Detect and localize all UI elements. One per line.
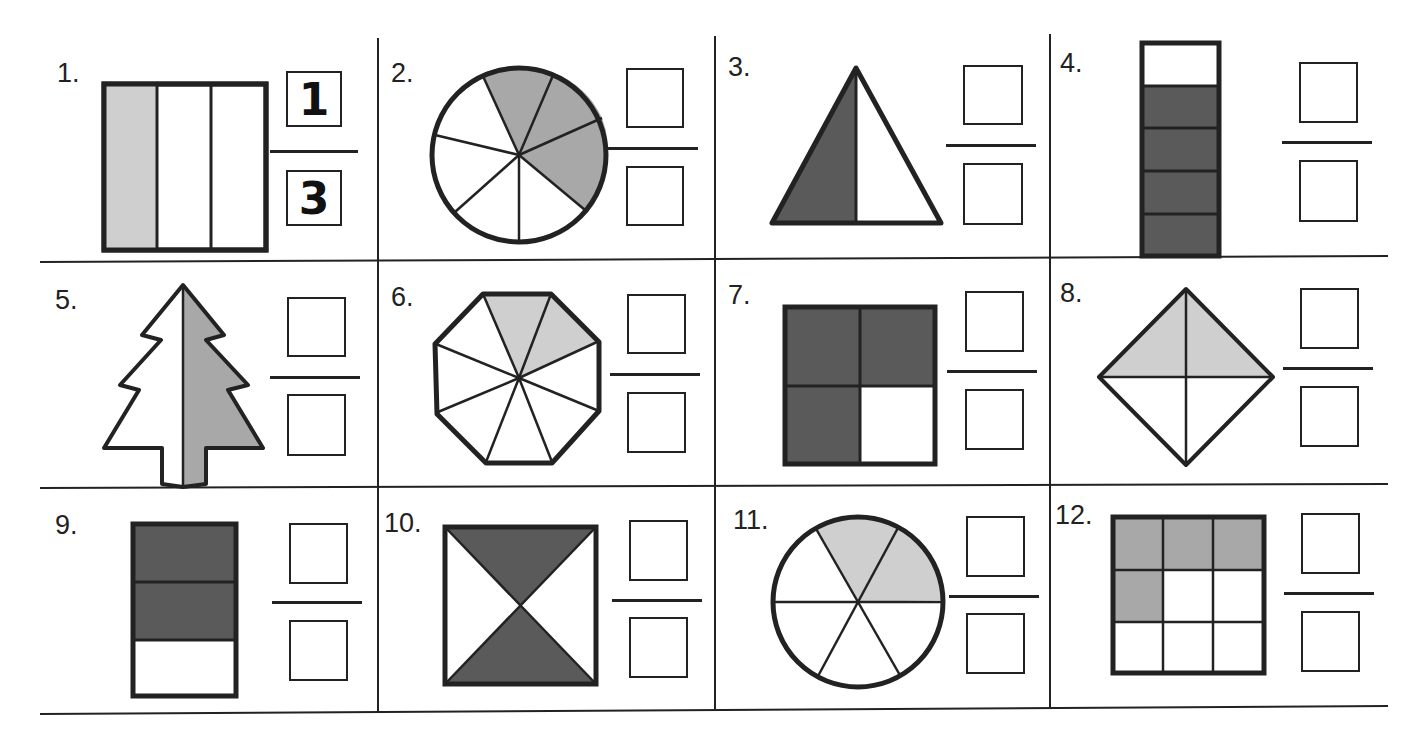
fraction-bar-5 bbox=[270, 376, 360, 379]
worksheet-graphics bbox=[0, 0, 1422, 747]
denominator-box-6[interactable] bbox=[627, 392, 686, 453]
fraction-bar-3 bbox=[946, 144, 1036, 147]
shape-7-square bbox=[785, 307, 935, 464]
shape-4-tall-rectangle bbox=[1142, 43, 1219, 256]
problem-number-5: 5. bbox=[55, 285, 78, 316]
numerator-box-11[interactable] bbox=[966, 516, 1025, 577]
denominator-box-8[interactable] bbox=[1300, 386, 1359, 447]
fraction-bar-10 bbox=[612, 599, 702, 602]
numerator-box-10[interactable] bbox=[629, 520, 688, 581]
problem-number-3: 3. bbox=[728, 52, 751, 83]
shape-12-grid bbox=[1113, 517, 1264, 673]
problem-number-1: 1. bbox=[57, 58, 80, 89]
denominator-box-2[interactable] bbox=[626, 166, 684, 226]
denominator-box-11[interactable] bbox=[966, 613, 1025, 674]
numerator-box-8[interactable] bbox=[1300, 288, 1359, 349]
denominator-box-10[interactable] bbox=[629, 617, 688, 678]
denominator-box-4[interactable] bbox=[1299, 160, 1358, 222]
fraction-bar-4 bbox=[1282, 141, 1372, 144]
shape-3-triangle bbox=[772, 68, 941, 223]
shape-1-rectangle bbox=[104, 84, 266, 250]
fraction-bar-9 bbox=[272, 601, 362, 604]
shape-10-hourglass-square bbox=[445, 527, 596, 684]
numerator-box-12[interactable] bbox=[1301, 513, 1360, 574]
numerator-box-4[interactable] bbox=[1299, 62, 1358, 123]
numerator-box-7[interactable] bbox=[965, 291, 1024, 352]
shape-2-circle bbox=[432, 66, 608, 244]
problem-number-10: 10. bbox=[384, 508, 422, 539]
fraction-bar-2 bbox=[608, 147, 698, 150]
numerator-box-1[interactable]: 1 bbox=[286, 71, 342, 127]
numerator-box-3[interactable] bbox=[963, 65, 1023, 125]
denominator-box-3[interactable] bbox=[963, 163, 1023, 225]
problem-number-9: 9. bbox=[55, 510, 78, 541]
fraction-bar-12 bbox=[1284, 592, 1374, 595]
shape-9-rectangle bbox=[133, 524, 236, 696]
problem-number-4: 4. bbox=[1060, 48, 1083, 79]
fraction-bar-6 bbox=[610, 373, 700, 376]
fraction-bar-11 bbox=[949, 595, 1039, 598]
denominator-box-12[interactable] bbox=[1301, 611, 1360, 672]
fraction-bar-1 bbox=[270, 150, 358, 153]
numerator-box-5[interactable] bbox=[287, 297, 346, 357]
problem-number-7: 7. bbox=[728, 280, 751, 311]
shape-11-circle bbox=[772, 516, 944, 687]
shape-6-octagon bbox=[435, 294, 599, 463]
shape-8-diamond bbox=[1099, 289, 1273, 465]
denominator-box-1[interactable]: 3 bbox=[286, 170, 342, 226]
problem-number-8: 8. bbox=[1060, 278, 1083, 309]
denominator-box-5[interactable] bbox=[287, 394, 346, 456]
shape-5-tree bbox=[104, 285, 263, 487]
fraction-bar-8 bbox=[1283, 367, 1373, 370]
fraction-bar-7 bbox=[947, 370, 1037, 373]
numerator-box-6[interactable] bbox=[627, 294, 686, 354]
problem-number-11: 11. bbox=[733, 505, 769, 536]
numerator-box-9[interactable] bbox=[289, 523, 348, 584]
numerator-box-2[interactable] bbox=[626, 68, 684, 128]
problem-number-12: 12. bbox=[1055, 500, 1093, 531]
denominator-box-9[interactable] bbox=[289, 620, 348, 681]
problem-number-6: 6. bbox=[391, 282, 414, 313]
problem-number-2: 2. bbox=[391, 58, 414, 89]
denominator-box-7[interactable] bbox=[965, 389, 1024, 450]
